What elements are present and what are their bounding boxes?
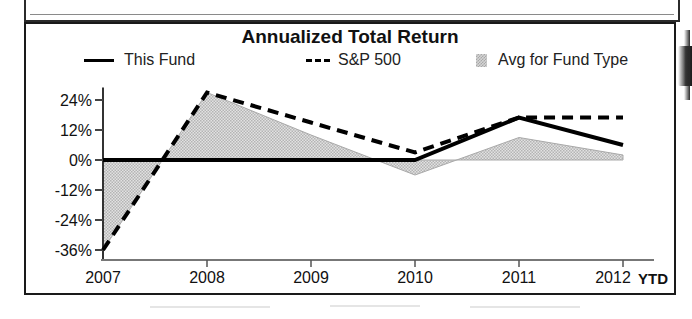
x-tick-label-2008: 2008 bbox=[172, 269, 242, 287]
x-tick-label-2007: 2007 bbox=[68, 269, 138, 287]
preceding-panel-edge bbox=[24, 0, 680, 22]
y-tick-label-4: -24% bbox=[28, 212, 92, 230]
y-tick-label-2: 0% bbox=[28, 152, 92, 170]
x-tick-label-2010: 2010 bbox=[380, 269, 450, 287]
scan-smudge bbox=[330, 305, 420, 307]
x-tick-label-2009: 2009 bbox=[276, 269, 346, 287]
chart-svg bbox=[26, 24, 678, 297]
plot-area bbox=[26, 24, 678, 297]
y-tick-label-3: -12% bbox=[28, 182, 92, 200]
scan-artifact-secondary bbox=[684, 30, 690, 100]
series-line-sp500 bbox=[103, 93, 623, 251]
y-tick-label-0: 24% bbox=[28, 92, 92, 110]
x-axis-ytd-label: YTD bbox=[638, 270, 668, 287]
scan-smudge bbox=[470, 306, 580, 308]
x-tick-label-2011: 2011 bbox=[484, 269, 554, 287]
scan-smudge bbox=[150, 306, 270, 308]
annualized-total-return-chart: Annualized Total Return This Fund S&P 50… bbox=[24, 22, 676, 295]
preceding-panel-rule bbox=[30, 0, 674, 15]
y-tick-label-1: 12% bbox=[28, 122, 92, 140]
y-tick-label-5: -36% bbox=[28, 242, 92, 260]
